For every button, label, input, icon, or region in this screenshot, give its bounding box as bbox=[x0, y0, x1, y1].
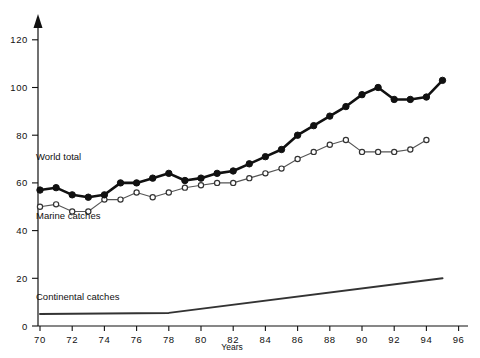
marine-catches-point bbox=[118, 197, 123, 202]
world-total-point bbox=[278, 146, 284, 152]
marine-catches-point bbox=[295, 156, 300, 161]
x-tick-label-74: 74 bbox=[99, 334, 111, 345]
world-total-point bbox=[69, 192, 75, 198]
x-tick-label-72: 72 bbox=[66, 334, 78, 345]
marine-catches-point bbox=[231, 180, 236, 185]
world-total-point bbox=[311, 122, 317, 128]
marine-catches-label: Marine catches bbox=[36, 210, 101, 221]
world-total-point bbox=[182, 177, 188, 183]
y-tick-label-120: 120 bbox=[10, 34, 28, 45]
y-tick-label-60: 60 bbox=[16, 177, 28, 188]
marine-catches-point bbox=[134, 190, 139, 195]
world-total-point bbox=[391, 96, 397, 102]
x-tick-label-90: 90 bbox=[356, 334, 368, 345]
marine-catches-point bbox=[247, 176, 252, 181]
world-total-point bbox=[198, 175, 204, 181]
marine-catches-point bbox=[424, 137, 429, 142]
y-tick-label-100: 100 bbox=[10, 82, 28, 93]
marine-catches-point bbox=[198, 183, 203, 188]
world-total-point bbox=[150, 175, 156, 181]
world-total-point bbox=[439, 77, 445, 83]
world-total-point bbox=[101, 192, 107, 198]
world-total-point bbox=[423, 94, 429, 100]
x-tick-label-88: 88 bbox=[324, 334, 336, 345]
marine-catches-point bbox=[166, 190, 171, 195]
chart-svg: 0 20 40 60 80 100 120 70 72 74 76 bbox=[0, 0, 480, 358]
world-total-point bbox=[375, 84, 381, 90]
marine-catches-point bbox=[215, 180, 220, 185]
x-tick-label-70: 70 bbox=[34, 334, 46, 345]
y-tick-group: 0 20 40 60 80 100 120 bbox=[10, 34, 38, 331]
x-tick-label-76: 76 bbox=[131, 334, 143, 345]
x-tick-label-86: 86 bbox=[292, 334, 304, 345]
marine-catches-point bbox=[343, 137, 348, 142]
world-total-point bbox=[85, 194, 91, 200]
world-total-label: World total bbox=[36, 151, 81, 162]
world-total-point bbox=[407, 96, 413, 102]
marine-catches-point bbox=[263, 171, 268, 176]
x-tick-group: 70 72 74 76 78 80 82 84 86 88 90 92 bbox=[34, 326, 464, 345]
world-total-point bbox=[262, 153, 268, 159]
x-tick-label-80: 80 bbox=[195, 334, 207, 345]
marine-catches-point bbox=[37, 204, 42, 209]
marine-catches-line bbox=[40, 140, 426, 212]
y-tick-label-40: 40 bbox=[16, 225, 28, 236]
world-total-line bbox=[40, 80, 443, 197]
marine-catches-point bbox=[150, 195, 155, 200]
world-total-point bbox=[294, 132, 300, 138]
x-tick-label-84: 84 bbox=[260, 334, 272, 345]
marine-catches-point bbox=[182, 185, 187, 190]
marine-catches-point bbox=[311, 149, 316, 154]
world-total-point bbox=[53, 184, 59, 190]
world-total-point bbox=[214, 170, 220, 176]
world-total-point bbox=[343, 103, 349, 109]
marine-catches-point bbox=[408, 147, 413, 152]
world-total-point bbox=[230, 168, 236, 174]
world-total-point bbox=[359, 91, 365, 97]
world-total-point bbox=[246, 161, 252, 167]
y-axis-arrow-icon bbox=[34, 14, 43, 28]
world-total-point bbox=[166, 170, 172, 176]
marine-catches-point bbox=[392, 149, 397, 154]
marine-catches-point bbox=[279, 166, 284, 171]
fisheries-catch-chart: 0 20 40 60 80 100 120 70 72 74 76 bbox=[0, 0, 480, 358]
x-tick-label-92: 92 bbox=[388, 334, 400, 345]
continental-catches-label: Continental catches bbox=[36, 291, 120, 302]
x-axis-title: Years bbox=[221, 342, 242, 352]
series-layer bbox=[37, 77, 446, 314]
marine-catches-point bbox=[327, 142, 332, 147]
world-total-point bbox=[133, 180, 139, 186]
world-total-point bbox=[37, 187, 43, 193]
x-tick-label-94: 94 bbox=[421, 334, 433, 345]
marine-catches-point bbox=[376, 149, 381, 154]
x-tick-label-78: 78 bbox=[163, 334, 175, 345]
marine-catches-point bbox=[359, 149, 364, 154]
y-axis bbox=[34, 14, 43, 326]
y-tick-label-20: 20 bbox=[16, 273, 28, 284]
world-total-point bbox=[327, 113, 333, 119]
x-tick-label-96: 96 bbox=[453, 334, 465, 345]
y-tick-label-0: 0 bbox=[22, 321, 28, 332]
marine-catches-point bbox=[54, 202, 59, 207]
world-total-point bbox=[117, 180, 123, 186]
y-tick-label-80: 80 bbox=[16, 130, 28, 141]
